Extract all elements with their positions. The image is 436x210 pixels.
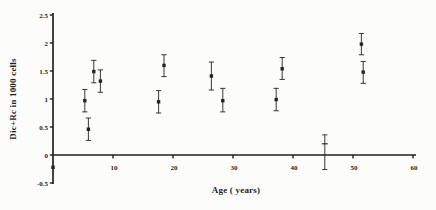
data-point-marker: [362, 70, 365, 73]
data-point-marker: [360, 42, 363, 45]
y-tick-label: -0.5: [37, 180, 49, 188]
data-point-marker: [210, 74, 213, 77]
y-axis-title: Dic+Rc in 1000 cells: [8, 58, 18, 140]
x-tick-label: 10: [111, 164, 119, 172]
x-tick-label: 40: [291, 164, 299, 172]
y-tick-label: 1.5: [39, 68, 48, 76]
chart-figure: -0.500.511.522.5102030405060 Dic+Rc in 1…: [0, 0, 436, 210]
data-point-marker: [92, 70, 95, 73]
data-point-marker: [157, 100, 160, 103]
data-point-marker: [99, 79, 102, 82]
data-point-marker: [275, 98, 278, 101]
data-point-marker: [281, 67, 284, 70]
x-axis-title: Age ( years): [212, 185, 260, 195]
data-point-marker: [87, 128, 90, 131]
y-tick-label: 0.5: [39, 124, 48, 132]
x-tick-label: 20: [171, 164, 179, 172]
data-point-marker: [221, 99, 224, 102]
y-tick-label: 2.5: [39, 12, 48, 20]
y-tick-label: 0: [45, 152, 49, 160]
scatter-plot: -0.500.511.522.5102030405060 Dic+Rc in 1…: [0, 0, 436, 210]
plot-layer: -0.500.511.522.5102030405060: [37, 12, 418, 188]
data-point-marker: [83, 99, 86, 102]
x-tick-label: 30: [231, 164, 239, 172]
x-tick-label: 60: [411, 164, 419, 172]
data-point-marker: [162, 64, 165, 67]
x-tick-label: 50: [351, 164, 359, 172]
y-tick-label: 2: [45, 40, 49, 48]
y-tick-label: 1: [45, 96, 49, 104]
data-point-marker: [51, 166, 54, 169]
